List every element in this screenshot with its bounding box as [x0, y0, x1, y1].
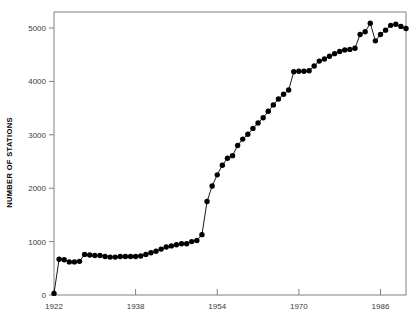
data-point-marker: [378, 32, 383, 37]
data-point-marker: [276, 96, 281, 101]
data-point-marker: [383, 27, 388, 32]
data-point-marker: [403, 26, 408, 31]
data-point-marker: [153, 249, 158, 254]
x-tick-label: 1922: [45, 302, 63, 311]
y-tick-label: 2000: [28, 184, 46, 193]
data-point-marker: [373, 38, 378, 43]
data-point-marker: [327, 54, 332, 59]
data-point-marker: [357, 32, 362, 37]
data-point-marker: [138, 253, 143, 258]
data-point-marker: [123, 254, 128, 259]
stations-line-chart: 010002000300040005000 192219381954197019…: [0, 0, 419, 325]
data-point-marker: [301, 69, 306, 74]
data-point-marker: [368, 21, 373, 26]
data-point-marker: [51, 291, 56, 296]
data-point-marker: [133, 254, 138, 259]
data-point-marker: [61, 257, 66, 262]
data-point-marker: [189, 239, 194, 244]
data-point-marker: [281, 92, 286, 97]
data-point-marker: [337, 49, 342, 54]
x-tick-label: 1954: [208, 302, 226, 311]
x-tick-label: 1986: [372, 302, 390, 311]
data-point-marker: [179, 241, 184, 246]
data-point-marker: [158, 246, 163, 251]
data-point-marker: [72, 259, 77, 264]
data-point-marker: [143, 252, 148, 257]
data-point-marker: [286, 87, 291, 92]
data-point-marker: [393, 22, 398, 27]
data-point-marker: [174, 242, 179, 247]
y-tick-label: 0: [42, 291, 47, 300]
data-point-marker: [342, 47, 347, 52]
data-point-marker: [118, 254, 123, 259]
data-point-marker: [255, 120, 260, 125]
data-point-marker: [362, 29, 367, 34]
data-point-marker: [128, 254, 133, 259]
data-point-marker: [245, 132, 250, 137]
data-point-marker: [225, 156, 230, 161]
data-point-marker: [67, 259, 72, 264]
data-point-marker: [215, 172, 220, 177]
data-point-marker: [332, 51, 337, 56]
data-point-marker: [296, 69, 301, 74]
y-tick-label: 5000: [28, 24, 46, 33]
data-point-marker: [311, 63, 316, 68]
data-point-marker: [87, 252, 92, 257]
data-point-marker: [194, 238, 199, 243]
data-point-marker: [164, 244, 169, 249]
data-point-marker: [352, 46, 357, 51]
data-point-marker: [250, 126, 255, 131]
data-point-marker: [148, 250, 153, 255]
data-point-marker: [266, 109, 271, 114]
data-point-marker: [240, 136, 245, 141]
data-point-marker: [97, 253, 102, 258]
data-point-marker: [204, 199, 209, 204]
data-point-marker: [235, 143, 240, 148]
y-tick-label: 4000: [28, 77, 46, 86]
y-tick-label: 3000: [28, 131, 46, 140]
data-point-marker: [199, 232, 204, 237]
data-point-marker: [77, 259, 82, 264]
data-point-marker: [398, 24, 403, 29]
data-point-marker: [260, 115, 265, 120]
data-point-marker: [322, 56, 327, 61]
data-point-marker: [388, 23, 393, 28]
data-point-marker: [169, 243, 174, 248]
data-point-marker: [271, 102, 276, 107]
data-point-marker: [220, 163, 225, 168]
data-point-marker: [230, 153, 235, 158]
chart-container: 010002000300040005000 192219381954197019…: [0, 0, 419, 325]
data-point-marker: [306, 68, 311, 73]
data-point-marker: [347, 47, 352, 52]
data-point-marker: [113, 254, 118, 259]
data-point-marker: [107, 254, 112, 259]
data-point-marker: [184, 241, 189, 246]
data-point-marker: [82, 252, 87, 257]
x-tick-label: 1938: [127, 302, 145, 311]
data-point-marker: [209, 183, 214, 188]
data-point-marker: [92, 253, 97, 258]
data-point-marker: [56, 257, 61, 262]
data-point-marker: [317, 58, 322, 63]
data-point-marker: [291, 69, 296, 74]
data-point-marker: [102, 254, 107, 259]
x-tick-label: 1970: [290, 302, 308, 311]
y-tick-label: 1000: [28, 238, 46, 247]
